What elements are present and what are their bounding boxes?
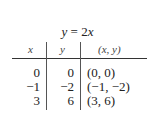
header-y: y (60, 44, 65, 55)
cell-x: 0 (18, 66, 40, 79)
cell-x: 3 (18, 94, 40, 107)
cell-y: 0 (52, 66, 74, 79)
cell-pair: (3, 6) (87, 94, 115, 107)
cell-y: 6 (52, 94, 74, 107)
cell-pair: (−1, −2) (87, 80, 130, 93)
table-title: y = 2x (0, 25, 155, 38)
cell-y: −2 (52, 80, 74, 93)
column-divider-1 (46, 42, 47, 110)
cell-x: −1 (18, 80, 40, 93)
title-var-x: x (88, 24, 94, 39)
header-pair: (x, y) (98, 44, 121, 55)
column-divider-2 (80, 42, 81, 110)
cell-pair: (0, 0) (87, 66, 115, 79)
header-x: x (28, 44, 33, 55)
title-equals: = 2 (67, 24, 87, 39)
